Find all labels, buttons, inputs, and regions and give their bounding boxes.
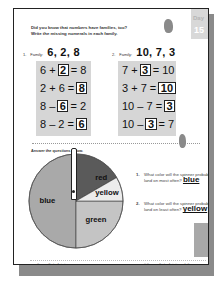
equation: 3 + 7 =10 xyxy=(122,82,178,94)
label-red: red xyxy=(95,173,107,182)
family-1-header: 1. Family: 6, 2, 8 xyxy=(23,46,80,58)
answer-box: 10 xyxy=(158,82,175,94)
mascot-icon xyxy=(164,19,173,33)
question-1: 1. What color will the spinner probably … xyxy=(144,172,209,184)
equation: 8 – 2 =6 xyxy=(40,118,89,130)
equation: 7 +3= 10 xyxy=(122,64,174,76)
family-label: Family: xyxy=(119,52,132,57)
section-divider xyxy=(32,143,200,144)
eq-right: = 10 xyxy=(153,64,175,76)
intro-line-2: Write the missing numerals in each famil… xyxy=(31,31,161,37)
question-number: 2. xyxy=(136,201,140,206)
day-number: 15 xyxy=(194,25,204,35)
family-label: Family: xyxy=(30,52,43,57)
family-1-equations: 6 +2= 8 2 + 6 =8 8 –6= 2 8 – 2 =6 xyxy=(36,61,91,136)
worksheet-page: Did you know that numbers have families,… xyxy=(13,8,209,265)
eq-right: = 2 xyxy=(70,100,86,112)
equation: 6 +2= 8 xyxy=(40,64,86,76)
question-answer: blue xyxy=(183,175,199,184)
answer-box: 3 xyxy=(145,118,156,130)
eq-left: 3 + 7 = xyxy=(122,82,156,94)
question-2: 2. What color will the spinner probably … xyxy=(144,201,209,213)
equation: 10 –3= 7 xyxy=(122,118,174,130)
eq-left: 8 – xyxy=(40,100,55,112)
day-tab: Day 15 xyxy=(191,9,208,39)
family-number: 1. xyxy=(23,52,26,57)
family-number: 2. xyxy=(112,52,115,57)
footer-divider xyxy=(30,260,206,261)
label-yellow: yellow xyxy=(95,188,118,197)
pie-slice-green xyxy=(76,201,123,248)
equation: 2 + 6 =8 xyxy=(40,82,89,94)
family-values: 10, 7, 3 xyxy=(136,46,175,58)
label-green: green xyxy=(86,215,107,224)
spinner-pivot xyxy=(72,190,75,193)
eq-right: = 7 xyxy=(159,118,175,130)
family-2-header: 2. Family: 10, 7, 3 xyxy=(112,46,175,58)
footer-page-number: 1o5 xyxy=(106,263,113,265)
intro-text: Did you know that numbers have families,… xyxy=(31,25,161,36)
eq-right: = 8 xyxy=(71,64,87,76)
eq-left: 10 – 7 = xyxy=(122,100,162,112)
answer-box: 3 xyxy=(140,64,151,76)
mascot-icon-2 xyxy=(179,134,186,148)
label-blue: blue xyxy=(40,196,56,205)
answer-box: 8 xyxy=(76,82,87,94)
answer-box: 6 xyxy=(57,100,68,112)
equation: 10 – 7 =3 xyxy=(122,100,177,112)
eq-left: 10 – xyxy=(122,118,143,130)
equation: 8 –6= 2 xyxy=(40,100,86,112)
question-number: 1. xyxy=(136,172,140,177)
family-2-equations: 7 +3= 10 3 + 7 =10 10 – 7 =3 10 –3= 7 xyxy=(118,61,176,136)
eq-left: 8 – 2 = xyxy=(40,118,74,130)
question-answer: yellow xyxy=(183,204,207,213)
eq-left: 7 + xyxy=(122,64,138,76)
side-tab xyxy=(194,223,208,257)
footer-copyright: © Summer Bridge Activities™ 1–2 xyxy=(144,263,189,265)
answer-box: 3 xyxy=(164,100,175,112)
answer-box: 2 xyxy=(58,64,69,76)
answer-box: 6 xyxy=(76,118,87,130)
footer-website: www.SummerBridgeActivities.com xyxy=(30,263,76,265)
day-label: Day xyxy=(193,15,204,21)
eq-left: 2 + 6 = xyxy=(40,82,74,94)
eq-left: 6 + xyxy=(40,64,56,76)
family-values: 6, 2, 8 xyxy=(47,46,80,58)
